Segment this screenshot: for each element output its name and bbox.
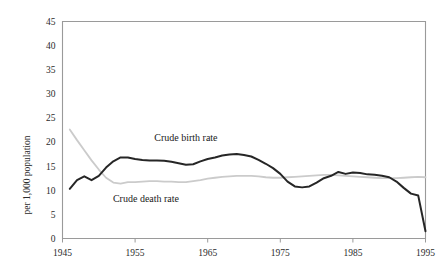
y-axis-title-group: per 1,000 population <box>22 135 32 214</box>
y-tick-label: 20 <box>46 137 56 147</box>
y-axis-title: per 1,000 population <box>22 135 32 214</box>
y-tick-label: 0 <box>51 234 56 244</box>
y-tick-label: 30 <box>46 89 56 99</box>
series-annotation-crude-birth-rate: Crude birth rate <box>154 132 218 143</box>
chart-container: 194519551965197519851995 051015202530354… <box>0 0 448 280</box>
y-tick-label: 25 <box>46 113 56 123</box>
data-series-group <box>70 130 426 232</box>
x-axis-ticks: 194519551965197519851995 <box>53 239 435 258</box>
axis-frame <box>63 22 426 239</box>
x-tick-label: 1985 <box>343 248 362 258</box>
x-tick-label: 1995 <box>416 248 435 258</box>
x-tick-label: 1975 <box>271 248 290 258</box>
x-tick-label: 1955 <box>126 248 145 258</box>
plot-frame <box>63 22 426 239</box>
series-annotation-crude-death-rate: Crude death rate <box>113 193 180 204</box>
y-tick-label: 40 <box>46 41 56 51</box>
y-tick-label: 35 <box>46 65 56 75</box>
x-tick-label: 1965 <box>198 248 217 258</box>
y-tick-label: 5 <box>51 210 56 220</box>
y-tick-label: 15 <box>46 162 56 172</box>
y-tick-label: 10 <box>46 186 56 196</box>
x-tick-label: 1945 <box>53 248 72 258</box>
y-tick-label: 45 <box>46 17 56 27</box>
crude-rates-line-chart: 194519551965197519851995 051015202530354… <box>0 0 448 280</box>
y-axis-tick-labels: 051015202530354045 <box>46 17 56 244</box>
series-annotations: Crude birth rateCrude death rate <box>113 132 218 204</box>
